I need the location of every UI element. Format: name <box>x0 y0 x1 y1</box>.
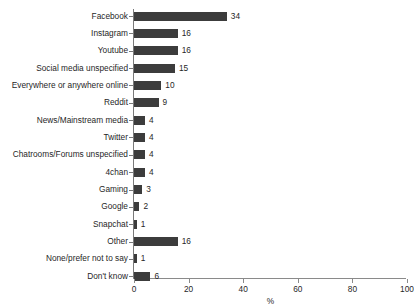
bar <box>134 46 178 55</box>
x-axis-tick-label: 60 <box>293 285 302 294</box>
x-axis-title: % <box>0 297 411 306</box>
category-label: Google <box>0 202 128 211</box>
y-axis-tick <box>129 85 133 86</box>
bar-value-label: 3 <box>146 185 151 194</box>
y-axis-tick <box>129 190 133 191</box>
x-axis-tick-label: 40 <box>239 285 248 294</box>
bar <box>134 202 139 211</box>
x-axis-tick <box>407 279 408 283</box>
bar-value-label: 16 <box>182 46 191 55</box>
category-label: Youtube <box>0 46 128 55</box>
x-axis-tick <box>134 279 135 283</box>
y-axis-tick <box>129 16 133 17</box>
bar <box>134 185 142 194</box>
bar-value-label: 16 <box>182 237 191 246</box>
bar <box>134 133 145 142</box>
x-axis-tick <box>298 279 299 283</box>
x-axis-tick-label: 100 <box>400 285 414 294</box>
bar-value-label: 4 <box>149 168 154 177</box>
bar-value-label: 9 <box>163 98 168 107</box>
bar-value-label: 6 <box>154 272 159 281</box>
y-axis-tick <box>129 137 133 138</box>
category-label: Gaming <box>0 185 128 194</box>
y-axis-tick <box>129 276 133 277</box>
category-label: News/Mainstream media <box>0 116 128 125</box>
category-label: Snapchat <box>0 220 128 229</box>
x-axis-tick-label: 20 <box>184 285 193 294</box>
y-axis-tick <box>129 259 133 260</box>
x-axis-tick <box>352 279 353 283</box>
bar <box>134 168 145 177</box>
category-label: Facebook <box>0 12 128 21</box>
bar-value-label: 1 <box>141 254 146 263</box>
bar <box>134 272 150 281</box>
bar-value-label: 2 <box>143 202 148 211</box>
bar-value-label: 1 <box>141 220 146 229</box>
y-axis-tick <box>129 224 133 225</box>
x-axis-tick <box>243 279 244 283</box>
x-axis-tick <box>189 279 190 283</box>
bar-value-label: 15 <box>179 64 188 73</box>
category-label: Chatrooms/Forums unspecified <box>0 150 128 159</box>
bar <box>134 220 137 229</box>
bar <box>134 150 145 159</box>
category-label: Other <box>0 237 128 246</box>
y-axis-tick <box>129 207 133 208</box>
category-label: Twitter <box>0 133 128 142</box>
category-label: Reddit <box>0 98 128 107</box>
y-axis-tick <box>129 172 133 173</box>
bar-value-label: 4 <box>149 133 154 142</box>
y-axis-tick <box>129 103 133 104</box>
x-axis-tick-label: 80 <box>348 285 357 294</box>
category-label: None/prefer not to say <box>0 254 128 263</box>
category-label: Don't know <box>0 272 128 281</box>
bar-value-label: 4 <box>149 150 154 159</box>
x-axis-title-label: % <box>267 297 274 306</box>
bar <box>134 12 227 21</box>
x-axis-tick-label: 0 <box>132 285 137 294</box>
bar <box>134 64 175 73</box>
bar <box>134 254 137 263</box>
bar-value-label: 10 <box>165 81 174 90</box>
y-axis-tick <box>129 155 133 156</box>
category-label: Social media unspecified <box>0 64 128 73</box>
bar <box>134 29 178 38</box>
y-axis-tick <box>129 68 133 69</box>
y-axis-tick <box>129 51 133 52</box>
y-axis-tick <box>129 120 133 121</box>
category-label: 4chan <box>0 168 128 177</box>
x-axis-line <box>133 278 406 279</box>
bar <box>134 116 145 125</box>
bar <box>134 81 161 90</box>
bar <box>134 237 178 246</box>
bar <box>134 98 159 107</box>
bar-value-label: 16 <box>182 29 191 38</box>
bar-value-label: 34 <box>231 12 240 21</box>
category-label: Everywhere or anywhere online <box>0 81 128 90</box>
y-axis-tick <box>129 242 133 243</box>
category-label: Instagram <box>0 29 128 38</box>
bar-value-label: 4 <box>149 116 154 125</box>
y-axis-tick <box>129 33 133 34</box>
